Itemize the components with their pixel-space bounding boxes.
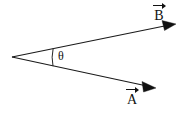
vector-a-shaft [12, 57, 147, 86]
vector-arrow-over-a-icon [126, 86, 139, 93]
vector-a-label: A [123, 86, 141, 107]
vector-a-letter: A [123, 93, 141, 107]
vector-arrow-over-b-icon [153, 2, 166, 9]
vector-a-arrowhead [142, 82, 156, 93]
vector-b-label: B [150, 2, 168, 23]
vector-b-letter: B [150, 9, 168, 23]
vector-angle-figure: B A θ [0, 0, 188, 118]
vector-b-shaft [12, 26, 167, 58]
angle-theta-label: θ [58, 50, 64, 62]
angle-arc [52, 48, 53, 66]
